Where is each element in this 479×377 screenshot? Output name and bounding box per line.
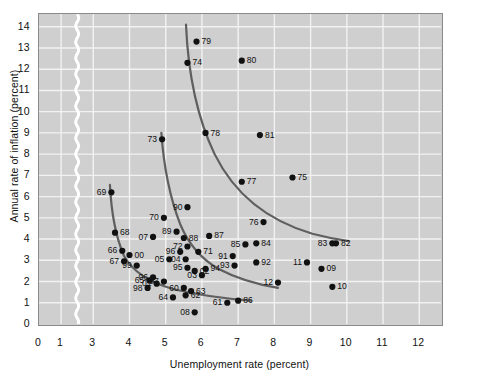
x-tick-1: 1	[48, 336, 72, 348]
data-point-64[interactable]: 64	[158, 292, 176, 302]
point-label: 84	[261, 238, 271, 248]
point-marker	[154, 281, 160, 287]
point-label: 77	[247, 176, 257, 186]
point-marker	[166, 256, 172, 262]
data-point-70[interactable]: 70	[149, 212, 167, 222]
point-label: 86	[243, 295, 253, 305]
data-point-91[interactable]: 91	[218, 251, 236, 261]
point-label: 71	[203, 246, 213, 256]
point-label: 93	[220, 260, 230, 270]
point-marker	[159, 136, 165, 142]
point-marker	[183, 292, 189, 298]
point-marker	[181, 235, 187, 241]
point-marker	[257, 132, 263, 138]
data-layer: 6162636465666768696070717273747576777879…	[39, 14, 441, 324]
data-point-90[interactable]: 90	[173, 202, 191, 212]
point-marker	[192, 309, 198, 315]
data-point-86[interactable]: 86	[235, 295, 253, 305]
data-point-99[interactable]: 99	[122, 260, 140, 270]
data-point-71[interactable]: 71	[195, 246, 213, 256]
x-tick-11: 11	[370, 336, 394, 348]
data-point-88[interactable]: 88	[181, 233, 199, 243]
data-point-93[interactable]: 93	[220, 260, 238, 270]
point-marker	[206, 233, 212, 239]
point-label: 82	[341, 238, 351, 248]
point-marker	[239, 179, 245, 185]
point-label: 87	[214, 230, 224, 240]
point-label: 00	[134, 250, 144, 260]
point-marker	[150, 274, 156, 280]
point-marker	[170, 294, 176, 300]
y-tick-10: 10	[4, 105, 30, 117]
data-point-12[interactable]: 12	[263, 277, 281, 287]
data-point-08[interactable]: 08	[180, 307, 198, 317]
point-marker	[184, 204, 190, 210]
point-marker	[239, 58, 245, 64]
point-marker	[119, 248, 125, 254]
point-marker	[184, 60, 190, 66]
point-marker	[253, 240, 259, 246]
point-label: 70	[149, 212, 159, 222]
point-marker	[126, 252, 132, 258]
data-point-10[interactable]: 10	[329, 281, 347, 291]
y-tick-7: 7	[4, 168, 30, 180]
x-tick-0: 0	[26, 336, 50, 348]
point-marker	[318, 266, 324, 272]
point-marker	[329, 284, 335, 290]
data-point-89[interactable]: 89	[162, 226, 180, 236]
data-point-76[interactable]: 76	[249, 217, 267, 227]
point-marker	[231, 263, 237, 269]
data-point-00[interactable]: 00	[126, 250, 144, 260]
x-tick-4: 4	[116, 336, 140, 348]
point-label: 07	[138, 232, 148, 242]
y-tick-14: 14	[4, 20, 30, 32]
point-label: 90	[173, 202, 183, 212]
data-point-84[interactable]: 84	[253, 238, 271, 248]
data-point-74[interactable]: 74	[184, 57, 202, 67]
point-label: 73	[148, 134, 158, 144]
data-point-81[interactable]: 81	[257, 130, 275, 140]
x-tick-7: 7	[225, 336, 249, 348]
x-axis-label: Unemployment rate (percent)	[0, 358, 479, 370]
data-point-09[interactable]: 09	[318, 263, 336, 273]
point-marker	[260, 219, 266, 225]
data-point-07[interactable]: 07	[138, 232, 156, 242]
point-label: 63	[196, 286, 206, 296]
point-label: 92	[261, 257, 271, 267]
point-label: 69	[97, 187, 107, 197]
point-marker	[184, 243, 190, 249]
x-tick-5: 5	[153, 336, 177, 348]
data-point-80[interactable]: 80	[239, 55, 257, 65]
x-tick-10: 10	[334, 336, 358, 348]
data-point-04[interactable]: 04	[171, 254, 189, 264]
data-point-87[interactable]: 87	[206, 230, 224, 240]
point-label: 64	[158, 292, 168, 302]
data-point-92[interactable]: 92	[253, 257, 271, 267]
point-label: 12	[263, 277, 273, 287]
point-label: 11	[293, 257, 302, 267]
data-point-69[interactable]: 69	[97, 187, 115, 197]
data-point-79[interactable]: 79	[193, 36, 211, 46]
point-label: 60	[169, 283, 179, 293]
data-point-77[interactable]: 77	[239, 176, 257, 186]
point-marker	[108, 189, 114, 195]
point-marker	[183, 256, 189, 262]
point-marker	[134, 263, 140, 269]
data-point-11[interactable]: 11	[293, 257, 310, 267]
point-label: 68	[120, 227, 130, 237]
point-label: 88	[189, 233, 199, 243]
point-label: 76	[249, 217, 259, 227]
point-marker	[224, 300, 230, 306]
point-label: 91	[218, 251, 228, 261]
data-point-85[interactable]: 85	[231, 239, 249, 249]
y-tick-13: 13	[4, 41, 30, 53]
point-marker	[199, 272, 205, 278]
point-label: 78	[211, 128, 221, 138]
point-marker	[161, 278, 167, 284]
y-tick-6: 6	[4, 190, 30, 202]
y-tick-11: 11	[4, 83, 30, 95]
point-label: 94	[211, 263, 221, 273]
point-marker	[253, 259, 259, 265]
data-point-75[interactable]: 75	[289, 172, 307, 182]
y-tick-2: 2	[4, 275, 30, 287]
